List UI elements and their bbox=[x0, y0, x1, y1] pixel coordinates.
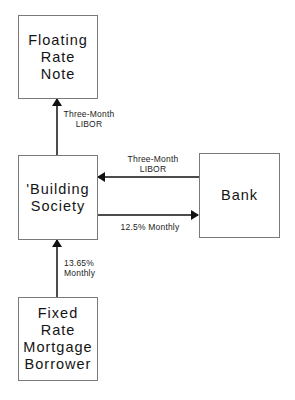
node-label: Fixed Rate Mortgage Borrower bbox=[19, 305, 97, 373]
node-label: Bank bbox=[221, 187, 258, 204]
node-floating-rate-note: Floating Rate Note bbox=[18, 15, 98, 99]
edge-label-bank-to-bs: Three-Month LIBOR bbox=[118, 154, 188, 174]
node-fixed-rate-mortgage-borrower: Fixed Rate Mortgage Borrower bbox=[18, 297, 98, 381]
edge-label-bs-to-frn: Three-Month LIBOR bbox=[60, 109, 118, 129]
edge-label-bs-to-bank: 12.5% Monthly bbox=[112, 222, 188, 232]
node-building-society: 'Building Society bbox=[18, 155, 98, 240]
node-bank: Bank bbox=[199, 153, 280, 238]
node-label: 'Building Society bbox=[26, 181, 89, 215]
node-label: Floating Rate Note bbox=[28, 32, 88, 83]
edge-label-borrower-to-bs: 13.65% Monthly bbox=[64, 258, 104, 278]
